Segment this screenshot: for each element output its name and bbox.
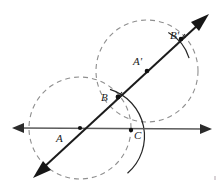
geometry-figure: A B C A' B' — [0, 0, 224, 190]
arrowhead-left-horizontal — [12, 123, 24, 133]
point-label-B-prime: B' — [170, 30, 179, 41]
point-label-B: B — [101, 92, 108, 103]
point-label-C: C — [134, 130, 141, 141]
point-label-A-prime: A' — [133, 56, 142, 67]
point-dot-A-prime — [145, 69, 150, 74]
point-label-A: A — [56, 133, 63, 144]
arrowhead-right-horizontal — [200, 124, 212, 134]
point-dot-A — [78, 126, 82, 130]
point-dot-B-prime — [179, 37, 184, 42]
geometry-canvas — [0, 0, 224, 190]
horizontal-ray — [12, 123, 212, 134]
point-dot-B — [116, 95, 121, 100]
corner-artifact — [214, 176, 216, 180]
point-dot-C — [129, 128, 133, 132]
